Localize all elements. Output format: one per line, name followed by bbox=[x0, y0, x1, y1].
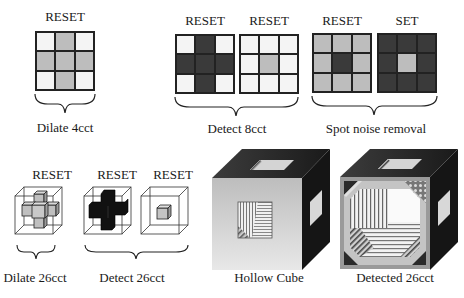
detect8-caption: Detect 8cct bbox=[187, 122, 287, 136]
detected-cube-icon bbox=[338, 148, 462, 272]
grid-cell-white bbox=[215, 35, 234, 54]
spot-grid-2 bbox=[377, 33, 437, 93]
grid-cell-dark bbox=[397, 34, 416, 53]
grid-cell-white bbox=[240, 54, 259, 73]
grid-cell-light bbox=[313, 34, 332, 53]
grid-cell-white bbox=[75, 32, 94, 51]
detect8-label-2: RESET bbox=[239, 14, 299, 28]
grid-cell-white bbox=[279, 74, 298, 93]
grid-cell-dark bbox=[176, 54, 195, 73]
grid-cell-light bbox=[55, 51, 74, 70]
grid-cell-dark bbox=[417, 34, 436, 53]
detect8-grid-2 bbox=[239, 34, 299, 94]
spot-label-1: RESET bbox=[312, 14, 372, 28]
hollow-cube-icon bbox=[210, 148, 334, 272]
grid-cell-dark bbox=[397, 73, 416, 92]
dilate4-brace bbox=[34, 93, 96, 115]
grid-cell-light bbox=[397, 53, 416, 72]
grid-cell-light bbox=[36, 51, 55, 70]
detect26-cube-small-icon bbox=[140, 186, 190, 236]
grid-cell-dark bbox=[332, 53, 351, 72]
grid-cell-dark bbox=[417, 73, 436, 92]
grid-cell-light bbox=[352, 73, 371, 92]
spot-label-2: SET bbox=[377, 14, 437, 28]
dilate4-label: RESET bbox=[35, 10, 95, 24]
hollow-caption: Hollow Cube bbox=[224, 271, 314, 285]
grid-cell-dark bbox=[417, 53, 436, 72]
grid-cell-white bbox=[176, 74, 195, 93]
grid-cell-white bbox=[75, 71, 94, 90]
detect8-label-1: RESET bbox=[175, 14, 235, 28]
grid-cell-dark bbox=[195, 54, 214, 73]
dilate26-label: RESET bbox=[22, 168, 82, 182]
detect8-brace bbox=[174, 96, 300, 118]
grid-cell-white bbox=[215, 74, 234, 93]
grid-cell-dark bbox=[195, 35, 214, 54]
grid-cell-light bbox=[75, 51, 94, 70]
grid-cell-dark bbox=[378, 73, 397, 92]
detect26-caption: Detect 26cct bbox=[92, 271, 172, 285]
spot-brace bbox=[311, 95, 439, 117]
dilate26-caption: Dilate 26cct bbox=[0, 271, 70, 285]
detect26-cube-black-icon bbox=[83, 186, 133, 236]
grid-cell-white bbox=[36, 71, 55, 90]
dilate4-grid bbox=[35, 31, 95, 91]
detected-caption: Detected 26cct bbox=[350, 271, 440, 285]
detect8-grid-1 bbox=[175, 34, 235, 94]
dilate4-caption: Dilate 4cct bbox=[15, 121, 115, 135]
grid-cell-light bbox=[352, 34, 371, 53]
grid-cell-white bbox=[259, 74, 278, 93]
grid-cell-white bbox=[36, 32, 55, 51]
grid-cell-light bbox=[332, 73, 351, 92]
grid-cell-light bbox=[332, 34, 351, 53]
grid-cell-light bbox=[313, 73, 332, 92]
grid-cell-white bbox=[279, 35, 298, 54]
spot-caption: Spot noise removal bbox=[314, 122, 438, 136]
detect26-label-2: RESET bbox=[143, 168, 203, 182]
spot-grid-1 bbox=[312, 33, 372, 93]
grid-cell-dark bbox=[215, 54, 234, 73]
grid-cell-white bbox=[240, 74, 259, 93]
grid-cell-white bbox=[176, 35, 195, 54]
grid-cell-light bbox=[352, 53, 371, 72]
grid-cell-light bbox=[55, 32, 74, 51]
detect26-brace bbox=[84, 244, 190, 262]
grid-cell-light bbox=[259, 54, 278, 73]
detect26-label-1: RESET bbox=[87, 168, 147, 182]
grid-cell-white bbox=[240, 35, 259, 54]
grid-cell-white bbox=[279, 54, 298, 73]
grid-cell-light bbox=[313, 53, 332, 72]
dilate26-brace bbox=[16, 244, 56, 262]
grid-cell-white bbox=[259, 35, 278, 54]
grid-cell-dark bbox=[195, 74, 214, 93]
grid-cell-dark bbox=[378, 53, 397, 72]
dilate26-cube-icon bbox=[14, 186, 64, 236]
grid-cell-dark bbox=[378, 34, 397, 53]
grid-cell-light bbox=[55, 71, 74, 90]
